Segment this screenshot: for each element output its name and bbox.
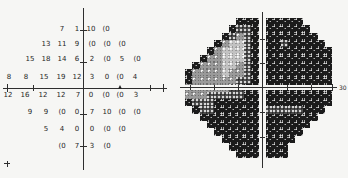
greyscale-y-tick: [260, 137, 265, 138]
greyscale-x-tick: [238, 85, 239, 90]
greyscale-cell: [325, 99, 333, 107]
greyscale-x-tick: [287, 85, 288, 90]
greyscale-cell: [251, 150, 259, 158]
greyscale-y-axis: [262, 12, 263, 168]
threshold-value: (0: [128, 108, 146, 117]
threshold-value: (0: [98, 142, 116, 151]
x-axis-right-cap: [163, 84, 164, 92]
threshold-value: (0: [113, 40, 131, 49]
visual-field-printout: 7110(013119(0(0(015181462(05(08815191230…: [0, 0, 348, 178]
greyscale-y-tick: [260, 63, 265, 64]
greyscale-cell: [281, 150, 289, 158]
greyscale-cell: [295, 128, 303, 136]
greyscale-x-end-cap: [332, 84, 333, 91]
threshold-value: 12: [52, 91, 70, 100]
greyscale-x-tick: [190, 85, 191, 90]
greyscale-x-tick: [311, 85, 312, 90]
threshold-value: (0: [128, 55, 146, 64]
threshold-value: 15: [35, 73, 53, 82]
threshold-value: (0: [113, 125, 131, 134]
threshold-value: 8: [17, 73, 35, 82]
threshold-value: 16: [16, 91, 34, 100]
threshold-value: 12: [34, 91, 52, 100]
threshold-value: 8: [0, 73, 18, 82]
threshold-x-axis: [3, 88, 167, 90]
greyscale-y-tick: [260, 39, 265, 40]
greyscale-y-tick: [260, 112, 265, 113]
greyscale-cell: [310, 114, 318, 122]
blind-spot-marker-icon: [118, 85, 122, 89]
x-axis-tick: [150, 85, 151, 91]
x-axis-degree-label: 30: [339, 84, 347, 91]
threshold-value: (0: [97, 25, 115, 34]
registration-mark: [7, 161, 8, 167]
threshold-value: 3: [127, 91, 145, 100]
greyscale-cell: [303, 121, 311, 129]
greyscale-cell: [317, 106, 325, 114]
greyscale-x-tick: [214, 85, 215, 90]
threshold-value: 12: [0, 91, 17, 100]
greyscale-x-axis: [180, 87, 337, 88]
threshold-value: 4: [126, 73, 144, 82]
greyscale-cell: [288, 136, 296, 144]
